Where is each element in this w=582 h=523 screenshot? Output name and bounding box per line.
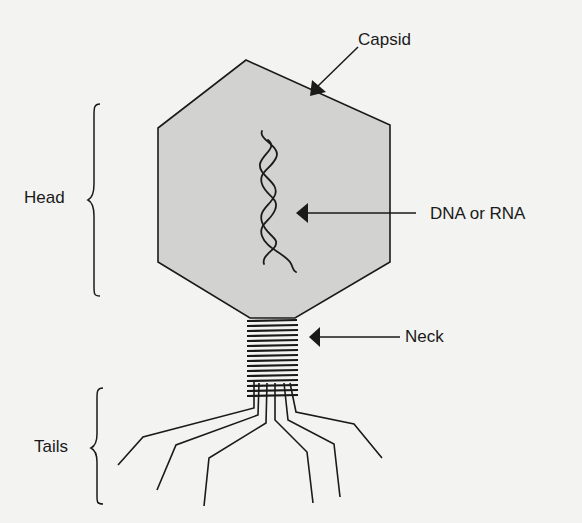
tail-fiber-5 (284, 383, 340, 497)
tail-fiber-1 (118, 380, 254, 465)
tail-fibers (118, 380, 382, 506)
tail-fiber-6 (290, 383, 382, 458)
neck-label: Neck (405, 328, 444, 345)
capsid-label: Capsid (358, 31, 411, 48)
head-label: Head (24, 189, 65, 206)
head-brace (88, 104, 100, 296)
tail-fiber-3 (204, 383, 267, 506)
dna-rna-label: DNA or RNA (430, 205, 525, 222)
neck-arrow (309, 327, 400, 347)
tails-label: Tails (34, 438, 68, 455)
capsid-hexagon (158, 60, 390, 318)
bacteriophage-diagram (0, 0, 582, 523)
capsid-arrow (310, 47, 358, 96)
tails-brace (91, 388, 103, 504)
